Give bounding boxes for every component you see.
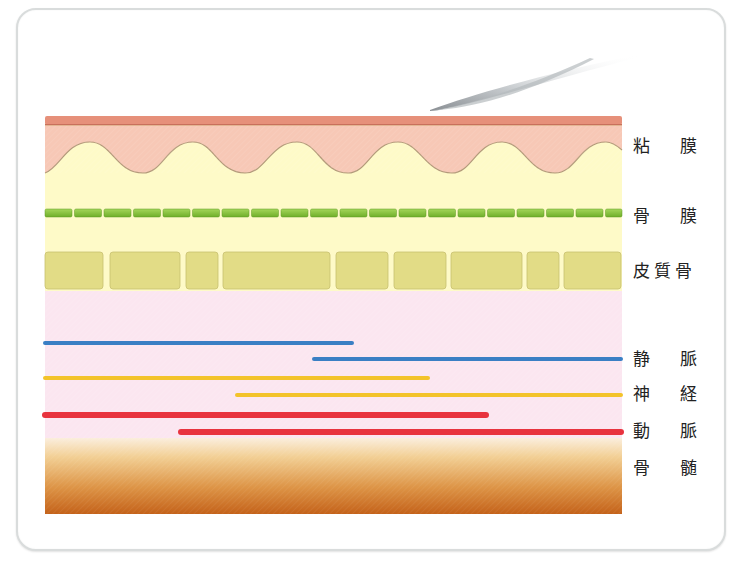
cortical-bone-block [564,252,621,289]
periosteum-segment [458,209,485,217]
periosteum-segment [311,209,338,217]
label-vein: 静 脈 [633,349,697,369]
periosteum-segment [134,209,161,217]
label-mucosa: 粘 膜 [633,136,697,156]
periosteum-segment [547,209,574,217]
label-cortical-char-1: 皮 [633,261,650,281]
periosteum-segment [104,209,131,217]
label-cortical-char-2: 質 [654,261,671,281]
periosteum-segment [252,209,279,217]
label-artery-char-2: 脈 [680,421,697,441]
periosteum-segment [429,209,456,217]
cortical-bone-block [110,252,180,289]
anatomy-diagram [0,0,737,565]
periosteum-segment [399,209,426,217]
label-bone-marrow: 骨 髄 [633,458,697,478]
periosteum-segment [193,209,220,217]
periosteum-segment [576,209,603,217]
needle-icon [430,55,640,111]
label-vein-char-1: 静 [633,349,650,369]
periosteum-segment [75,209,102,217]
periosteum-segment [281,209,308,217]
label-nerve: 神 経 [633,384,697,404]
periosteum-segment [606,209,623,217]
label-periosteum: 骨 膜 [633,206,697,226]
periosteum-segment [222,209,249,217]
label-mucosa-char-2: 膜 [680,136,697,156]
label-artery: 動 脈 [633,421,697,441]
cortical-bone-block [451,252,522,289]
label-periosteum-char-2: 膜 [680,206,697,226]
periosteum-segment [517,209,544,217]
label-artery-char-1: 動 [633,421,650,441]
periosteum-segment [45,209,72,217]
cortical-bone-block [527,252,559,289]
label-nerve-char-1: 神 [633,384,650,404]
cortical-bone-block [223,252,330,289]
periosteum-segment [340,209,367,217]
mucosa-surface [45,116,622,125]
periosteum-segment [488,209,515,217]
cortical-bone-block [186,252,218,289]
periosteum-segment [163,209,190,217]
label-marrow-char-2: 髄 [680,458,697,478]
cortical-bone-block [45,252,103,289]
label-periosteum-char-1: 骨 [633,206,650,226]
label-cortical-char-3: 骨 [675,261,692,281]
label-mucosa-char-1: 粘 [633,136,650,156]
label-nerve-char-2: 経 [680,384,697,404]
label-marrow-char-1: 骨 [633,458,650,478]
cortical-bone-block [394,252,446,289]
periosteum-segment [370,209,397,217]
label-vein-char-2: 脈 [680,349,697,369]
cortical-bone-block [336,252,388,289]
label-cortical-bone: 皮 質 骨 [633,261,697,281]
